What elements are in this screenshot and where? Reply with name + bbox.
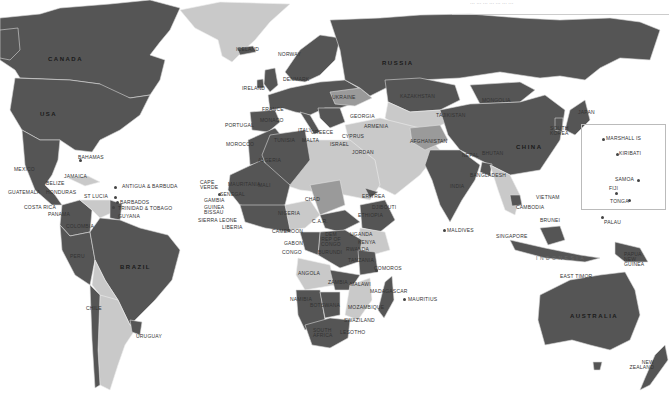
label-uruguay: URUGUAY <box>136 334 162 339</box>
label-botswana: BOTSWANA <box>310 303 340 308</box>
label-mauritania: MAURITANIA <box>228 182 260 187</box>
label-swaziland: SWAZILAND <box>344 318 375 323</box>
label-madagascar: MADAGASCAR <box>370 289 408 294</box>
borneo-shape <box>540 226 565 245</box>
label-tanzania: TANZANIA <box>348 258 374 263</box>
label-portugal: PORTUGAL <box>225 123 254 128</box>
label-israel: ISRAEL <box>330 142 349 147</box>
label-ethiopia: ETHIOPIA <box>358 213 383 218</box>
label-south-korea: SOUTH KOREA <box>550 126 568 136</box>
label-fiji: FIJI <box>609 186 618 191</box>
label-iceland: ICELAND <box>236 47 259 52</box>
label-st-lucia: ST LUCIA <box>84 194 108 199</box>
tonga-dot <box>628 199 631 202</box>
label-jordan: JORDAN <box>352 150 374 155</box>
label-drc: DEM REP OF CONGO <box>320 232 342 247</box>
label-maldives: MALDIVES <box>447 228 474 233</box>
label-russia: RUSSIA <box>382 60 414 66</box>
barbados-dot <box>116 201 119 204</box>
label-nigeria: NIGERIA <box>278 211 300 216</box>
label-indonesia: INDONESIA <box>536 256 586 261</box>
label-china: CHINA <box>516 144 543 150</box>
label-singapore: SINGAPORE <box>496 234 528 239</box>
label-guatemala: GUATEMALA <box>8 190 40 195</box>
comoros-dot <box>375 269 378 272</box>
label-georgia: GEORGIA <box>350 114 375 119</box>
label-guyana: GUYANA <box>118 214 140 219</box>
label-denmark: DENMARK <box>283 77 309 82</box>
label-car: C.A.R. <box>312 219 328 224</box>
label-rwanda: RWANDA <box>346 247 369 252</box>
label-palau: PALAU <box>604 220 621 225</box>
label-ireland: IRELAND <box>242 86 265 91</box>
label-trinidad: TRINIDAD & TOBAGO <box>118 206 172 211</box>
antigua-dot <box>114 186 117 189</box>
label-ukraine: UKRAINE <box>332 95 356 100</box>
chile-shape <box>90 285 100 388</box>
label-costa-rica: COSTA RICA <box>24 205 56 210</box>
label-mali: MALI <box>258 183 270 188</box>
label-gabon: GABON <box>284 241 303 246</box>
label-mexico: MEXICO <box>14 167 35 172</box>
greenland-shape <box>180 2 290 62</box>
label-brazil: BRAZIL <box>120 264 151 270</box>
label-lesotho: LESOTHO <box>340 330 365 335</box>
label-cameroon: CAMEROON <box>272 229 303 234</box>
label-eritrea: ERITREA <box>362 194 385 199</box>
label-uganda: UGANDA <box>350 232 373 237</box>
label-monaco: MONACO <box>260 118 284 123</box>
label-vietnam: VIETNAM <box>536 195 560 200</box>
uk-shape <box>264 68 278 92</box>
label-mongolia: MONGOLIA <box>482 98 511 103</box>
label-india: INDIA <box>450 184 464 189</box>
madagascar-shape <box>378 276 394 318</box>
label-norway: NORWAY <box>278 52 301 57</box>
label-mauritius: MAURITIUS <box>408 297 437 302</box>
label-tonga: TONGA <box>610 199 629 204</box>
label-kenya: KENYA <box>358 240 376 245</box>
label-nepal: NEPAL <box>462 153 479 158</box>
label-kiribati: KIRIBATI <box>619 151 641 156</box>
kiribati-dot <box>616 153 619 156</box>
label-sierra-leone: SIERRA LEONE <box>198 218 237 223</box>
map-frame-line <box>452 14 669 15</box>
label-liberia: LIBERIA <box>222 225 243 230</box>
label-greece: GREECE <box>311 130 333 135</box>
bahamas-dot <box>79 159 82 162</box>
label-colombia: COLOMBIA <box>66 224 94 229</box>
label-armenia: ARMENIA <box>364 124 388 129</box>
malta-dot <box>302 139 305 142</box>
label-chile: CHILE <box>86 306 102 311</box>
cape-verde-dot <box>218 193 221 196</box>
label-algeria: ALGERIA <box>258 158 281 163</box>
label-australia: AUSTRALIA <box>570 313 618 319</box>
samoa-dot <box>637 179 640 182</box>
label-papua-new-guinea: PAPUA NEW GUINEA <box>624 252 642 267</box>
label-belize: BELIZE <box>46 181 64 186</box>
label-djibouti: DJIBOUTI <box>372 205 396 210</box>
label-bhutan: BHUTAN <box>482 151 503 156</box>
label-marshall-islands: MARSHALL IS <box>606 136 641 141</box>
map-title: ··· ··· ··· ··· ··· ··· ··· <box>470 0 513 6</box>
label-zambia: ZAMBIA <box>328 280 348 285</box>
label-comoros: COMOROS <box>374 266 402 271</box>
label-honduras: HONDURAS <box>46 190 76 195</box>
label-south-africa: SOUTH AFRICA <box>313 328 331 338</box>
label-gambia: GAMBIA <box>204 198 225 203</box>
fiji-dot <box>615 192 618 195</box>
label-chad: CHAD <box>305 197 320 202</box>
label-guinea-bissau: GUINEA BISSAU <box>204 205 226 215</box>
label-namibia: NAMIBIA <box>290 297 312 302</box>
label-canada: CANADA <box>48 56 83 62</box>
label-cambodia: CAMBODIA <box>516 205 544 210</box>
label-morocco: MOROCCO <box>226 142 254 147</box>
label-tajikistan: TAJIKISTAN <box>436 113 466 118</box>
label-malawi: MALAWI <box>350 282 371 287</box>
label-france: FRANCE <box>262 107 284 112</box>
label-brunei: BRUNEI <box>540 218 560 223</box>
label-cyprus: CYPRUS <box>342 134 364 139</box>
label-cape-verde: CAPE VERDE <box>200 180 220 190</box>
mauritius-dot <box>403 298 406 301</box>
label-congo: CONGO <box>282 250 302 255</box>
label-kazakhstan: KAZAKHSTAN <box>400 94 435 99</box>
